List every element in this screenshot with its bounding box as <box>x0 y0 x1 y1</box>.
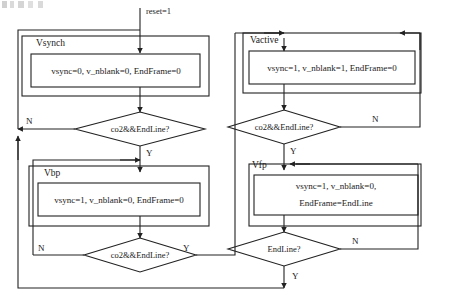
decision-label-vfp-cond: EndLine? <box>267 245 300 255</box>
action-text-vbp: vsync=1, v_nblank=0, EndFrame=0 <box>54 195 184 205</box>
action-text-vactive: vsync=1, v_nblank=1, EndFrame=0 <box>267 63 397 73</box>
branch-label-vsynch-yes: Y <box>146 148 153 158</box>
branch-label-vsynch-no: N <box>26 116 33 126</box>
edge-vactive-no-loop <box>340 33 420 127</box>
decision-label-vsynch-cond: co2&&EndLine? <box>111 125 170 135</box>
branch-label-vfp-yes: Y <box>292 271 299 281</box>
state-label-vfp: Vfp <box>252 160 267 171</box>
flowchart-edges-and-shapes <box>0 0 463 306</box>
state-label-vsynch: Vsynch <box>36 38 65 49</box>
decision-label-vbp-cond: co2&&EndLine? <box>111 251 170 261</box>
branch-label-vfp-no: N <box>352 236 359 246</box>
action-text-vfp-line1: vsync=1, v_nblank=0, <box>296 181 376 191</box>
state-group-vfp <box>249 164 421 226</box>
flowchart-canvas: reset=1 Vsynch vsync=0, v_nblank=0, EndF… <box>0 0 463 306</box>
branch-label-vactive-no: N <box>372 114 379 124</box>
branch-label-vactive-yes: Y <box>290 146 297 156</box>
action-text-vsynch: vsync=0, v_nblank=0, EndFrame=0 <box>51 66 181 76</box>
state-label-vbp: Vbp <box>44 168 60 179</box>
edge-global-return-rail <box>18 140 284 288</box>
decision-label-vactive-cond: co2&&EndLine? <box>255 123 314 133</box>
state-label-vactive: Vactive <box>250 35 279 46</box>
action-text-vfp-line2: EndFrame=EndLine <box>299 198 373 208</box>
edge-vbp-yes-to-vactive <box>196 33 235 255</box>
branch-label-vbp-yes: Y <box>183 243 190 253</box>
branch-label-vbp-no: N <box>38 243 45 253</box>
edge-label-reset: reset=1 <box>146 7 171 17</box>
